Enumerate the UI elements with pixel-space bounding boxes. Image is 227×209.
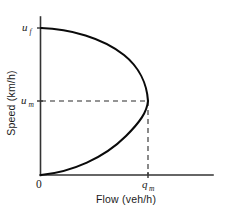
x-axis-title: Flow (veh/h)	[96, 193, 156, 205]
um-subscript: m	[29, 100, 35, 109]
speed-flow-diagram: u f u m q m 0 Flow (veh/h) Speed (km/h)	[0, 0, 227, 209]
y-axis-title: Speed (km/h)	[5, 70, 17, 135]
origin-label: 0	[36, 178, 42, 190]
chart-canvas: u f u m q m 0 Flow (veh/h) Speed (km/h)	[0, 0, 227, 209]
chart-background	[0, 0, 227, 209]
qm-symbol: q	[142, 178, 148, 190]
uf-symbol: u	[22, 21, 28, 33]
qm-subscript: m	[149, 184, 155, 193]
um-symbol: u	[21, 94, 27, 106]
